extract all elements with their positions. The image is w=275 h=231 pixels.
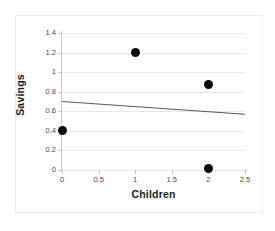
gridline-horizontal [62, 92, 245, 93]
y-axis-tick [58, 92, 62, 93]
y-tick-label: 0.6 [32, 107, 56, 115]
x-tick-label: 1 [120, 175, 150, 184]
gridline-horizontal [62, 33, 245, 34]
x-tick-label: 0 [47, 175, 77, 184]
y-tick-label: 0.2 [32, 146, 56, 154]
gridline-horizontal [62, 72, 245, 73]
y-tick-label: 0 [32, 166, 56, 174]
y-axis-title: Savings [14, 45, 26, 145]
y-tick-label: 0.8 [32, 88, 56, 96]
y-axis-tick [58, 33, 62, 34]
y-tick-label: 1 [32, 68, 56, 76]
x-axis-tick [99, 170, 100, 174]
y-tick-labels: 00.20.40.60.811.21.4 [28, 0, 56, 231]
plot-area [62, 33, 245, 170]
gridline-horizontal [62, 150, 245, 151]
x-axis-tick [135, 170, 136, 174]
chart-figure: 00.20.40.60.811.21.4 00.511.522.5 Childr… [0, 0, 275, 231]
gridline-horizontal [62, 170, 245, 171]
y-axis-tick [58, 53, 62, 54]
data-point [204, 164, 213, 173]
y-axis-tick [58, 111, 62, 112]
x-axis-title: Children [62, 188, 245, 200]
x-tick-label: 0.5 [84, 175, 114, 184]
x-axis-tick [245, 170, 246, 174]
y-tick-label: 1.4 [32, 29, 56, 37]
gridline-horizontal [62, 111, 245, 112]
x-tick-label: 2 [193, 175, 223, 184]
x-axis-tick [62, 170, 63, 174]
x-tick-label: 1.5 [157, 175, 187, 184]
data-point [131, 48, 140, 57]
data-point [58, 126, 67, 135]
y-tick-label: 0.4 [32, 127, 56, 135]
y-axis-tick [58, 72, 62, 73]
gridline-horizontal [62, 131, 245, 132]
x-tick-label: 2.5 [230, 175, 260, 184]
gridline-horizontal [62, 53, 245, 54]
x-axis-tick [172, 170, 173, 174]
y-tick-label: 1.2 [32, 49, 56, 57]
y-axis-tick [58, 150, 62, 151]
